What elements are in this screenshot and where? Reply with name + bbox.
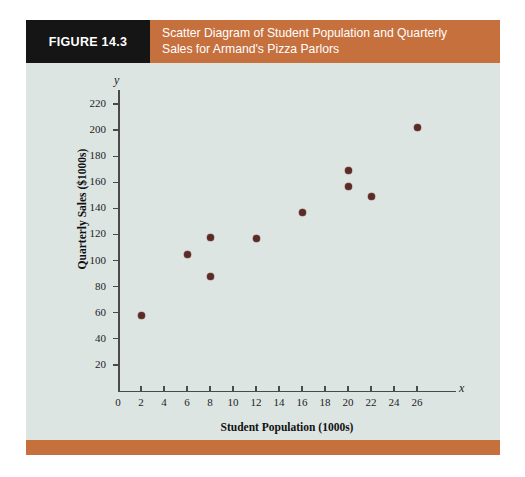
data-point (184, 251, 191, 258)
data-point (207, 234, 214, 241)
figure-footer-bar (26, 440, 500, 455)
y-tick-mark (113, 364, 118, 365)
y-tick-mark (113, 260, 118, 261)
y-tick-label: 220 (66, 97, 106, 109)
x-tick-mark (140, 386, 141, 391)
x-tick-label: 26 (402, 396, 432, 408)
data-point (368, 193, 375, 200)
y-tick-mark (113, 312, 118, 313)
data-point (253, 235, 260, 242)
data-point (414, 124, 421, 131)
y-tick-mark (113, 338, 118, 339)
y-tick-mark (113, 286, 118, 287)
x-tick-mark (278, 386, 279, 391)
x-tick-mark (232, 386, 233, 391)
figure-number-tag: FIGURE 14.3 (26, 20, 150, 63)
y-axis-title: Quarterly Sales ($1000s) (76, 109, 88, 309)
x-tick-mark (393, 386, 394, 391)
x-tick-mark (209, 386, 210, 391)
y-tick-mark (113, 156, 118, 157)
x-axis-title: Student Population (1000s) (118, 421, 456, 433)
y-tick-mark (113, 103, 118, 104)
data-point (345, 167, 352, 174)
figure-page: FIGURE 14.3 Scatter Diagram of Student P… (0, 0, 525, 477)
y-tick-mark (113, 129, 118, 130)
figure-caption-line-2: Sales for Armand's Pizza Parlors (162, 42, 490, 58)
figure-caption: Scatter Diagram of Student Population an… (150, 20, 500, 63)
y-tick-label: 20 (66, 358, 106, 370)
x-tick-mark (301, 386, 302, 391)
y-tick-label: 40 (66, 332, 106, 344)
x-axis-line (118, 391, 456, 393)
figure-header: FIGURE 14.3 Scatter Diagram of Student P… (26, 20, 500, 63)
x-tick-mark (416, 386, 417, 391)
data-point (207, 273, 214, 280)
y-axis-line (118, 90, 120, 392)
y-axis-variable-letter: y (114, 73, 119, 88)
x-tick-mark (324, 386, 325, 391)
y-tick-mark (113, 208, 118, 209)
scatter-plot: y x 20406080100120140160180200220 024681… (26, 63, 500, 440)
y-tick-mark (113, 182, 118, 183)
data-point (299, 209, 306, 216)
x-tick-mark (255, 386, 256, 391)
data-point (138, 312, 145, 319)
x-axis-variable-letter: x (459, 381, 464, 396)
x-tick-mark (163, 386, 164, 391)
data-point (345, 183, 352, 190)
y-tick-mark (113, 234, 118, 235)
figure-caption-line-1: Scatter Diagram of Student Population an… (162, 26, 490, 42)
x-tick-mark (370, 386, 371, 391)
x-tick-mark (347, 386, 348, 391)
x-tick-mark (186, 386, 187, 391)
